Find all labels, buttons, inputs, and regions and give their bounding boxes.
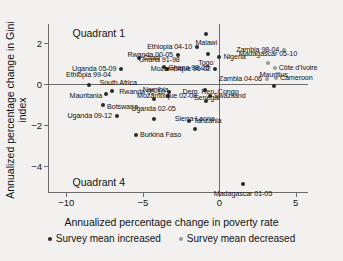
data-point-label: Sierra Leone: [175, 116, 215, 123]
data-point[interactable]: [101, 103, 105, 107]
data-point[interactable]: [115, 114, 119, 118]
data-point[interactable]: [110, 89, 114, 93]
data-point[interactable]: [217, 55, 221, 59]
y-axis-label: Annualized percentage change in Gini ind…: [4, 10, 28, 210]
data-point-label: Madagascar 05-10: [239, 51, 297, 58]
data-point[interactable]: [134, 133, 138, 137]
y-tick-mark: [44, 166, 48, 167]
y-axis-line: [48, 24, 49, 193]
x-tick-label: −5: [137, 197, 148, 208]
data-point[interactable]: [119, 67, 123, 71]
data-point[interactable]: [206, 52, 210, 56]
data-point[interactable]: [204, 99, 208, 103]
legend-item[interactable]: Survey mean decreased: [179, 233, 295, 244]
data-point[interactable]: [272, 84, 276, 88]
y-tick-mark: [44, 125, 48, 126]
data-point-label: Mozambique 96-02: [151, 66, 211, 73]
data-point-label: Ghana 91-98: [139, 56, 180, 63]
data-point[interactable]: [204, 32, 208, 36]
data-point-label: Mauritius: [259, 71, 287, 78]
quadrant-annotation: Quadrant 1: [72, 27, 125, 39]
data-point[interactable]: [266, 61, 270, 65]
data-point[interactable]: [213, 67, 217, 71]
scatter-plot-area: −10−505 20−2−4 MalawiEthiopia 04-10TogoN…: [48, 24, 308, 193]
data-point-label: Burkina Faso: [140, 132, 181, 139]
data-point-label: Zambia 04-06: [219, 76, 262, 83]
legend-label: Survey mean decreased: [187, 233, 295, 244]
data-point-label: Uganda 02-05: [131, 106, 175, 113]
x-tick-label: −10: [58, 197, 74, 208]
x-tick-label: 5: [293, 197, 298, 208]
data-point-label: South Africa: [99, 79, 137, 86]
quadrant-annotation: Quadrant 4: [72, 176, 125, 188]
data-point-label: Dem. Rep. Congo: [183, 88, 239, 95]
legend-marker-icon: [179, 237, 183, 241]
x-tick-label: 0: [217, 197, 222, 208]
legend-item[interactable]: Survey mean increased: [48, 233, 161, 244]
y-tick-mark: [44, 84, 48, 85]
data-point-label: Namibia: [143, 86, 169, 93]
data-point[interactable]: [152, 97, 156, 101]
zero-vertical-reference-line: [219, 24, 220, 193]
y-tick-mark: [44, 43, 48, 44]
data-point[interactable]: [104, 92, 108, 96]
chart-legend: Survey mean increasedSurvey mean decreas…: [0, 233, 343, 244]
data-point[interactable]: [273, 66, 277, 70]
x-axis-label: Annualized percentage change in poverty …: [0, 216, 343, 228]
data-point[interactable]: [152, 117, 156, 121]
data-point[interactable]: [87, 83, 91, 87]
data-point[interactable]: [241, 182, 245, 186]
data-point-label: Uganda 09-12: [67, 112, 111, 119]
legend-label: Survey mean increased: [56, 233, 161, 244]
data-point-label: Ethiopia 99-04: [66, 71, 111, 78]
chart-figure: −10−505 20−2−4 MalawiEthiopia 04-10TogoN…: [0, 0, 343, 261]
data-point-label: Madagascar 01-05: [214, 190, 272, 197]
data-point[interactable]: [195, 45, 199, 49]
data-point-label: Mauritania: [70, 93, 103, 100]
data-point[interactable]: [193, 127, 197, 131]
legend-marker-icon: [48, 237, 52, 241]
